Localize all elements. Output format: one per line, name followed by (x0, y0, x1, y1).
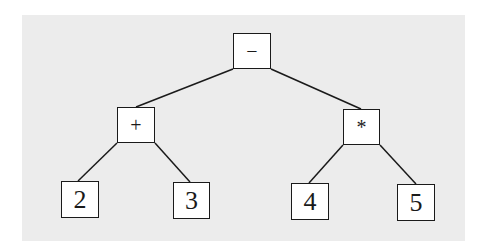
node-times: * (343, 109, 380, 145)
node-label: 5 (410, 188, 423, 218)
node-label: 3 (185, 186, 198, 216)
node-label: − (246, 40, 257, 63)
edge-times-five (380, 145, 416, 184)
edge-root-times (271, 69, 361, 109)
node-minus-root: − (233, 33, 271, 69)
edge-root-plus (136, 69, 233, 107)
node-leaf-2: 2 (61, 181, 99, 218)
edge-times-four (309, 145, 343, 183)
edge-plus-two (78, 143, 117, 181)
node-leaf-4: 4 (291, 183, 329, 220)
node-label: + (130, 114, 141, 137)
node-leaf-5: 5 (397, 184, 435, 221)
node-label: 2 (74, 185, 87, 215)
node-label: 4 (304, 187, 317, 217)
edge-plus-three (155, 143, 190, 182)
node-plus: + (117, 107, 155, 143)
node-label: * (357, 116, 367, 139)
node-leaf-3: 3 (173, 182, 210, 219)
